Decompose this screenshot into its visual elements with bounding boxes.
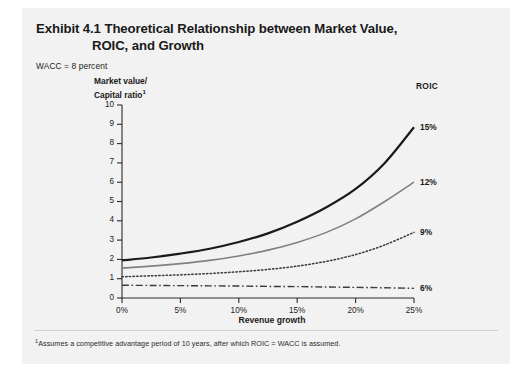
- y-tick-label-9: 9: [96, 119, 114, 128]
- x-tick-label-20pct: 20%: [341, 306, 371, 315]
- series-label-15pct: 15%: [420, 122, 437, 132]
- x-tick-label-10pct: 10%: [224, 306, 254, 315]
- x-tick-label-5pct: 5%: [165, 306, 195, 315]
- x-axis-ticks: [122, 298, 414, 303]
- footnote: 1Assumes a competitive advantage period …: [35, 338, 495, 348]
- y-tick-label-4: 4: [96, 215, 114, 224]
- x-tick-label-25pct: 25%: [399, 306, 429, 315]
- x-tick-label-15pct: 15%: [282, 306, 312, 315]
- y-tick-label-3: 3: [96, 235, 114, 244]
- y-tick-label-8: 8: [96, 138, 114, 147]
- y-tick-label-2: 2: [96, 254, 114, 263]
- y-tick-label-6: 6: [96, 177, 114, 186]
- series-label-6pct: 6%: [420, 283, 432, 293]
- exhibit-panel: Exhibit 4.1 Theoretical Relationship bet…: [22, 8, 510, 364]
- series-line-15pct: [122, 127, 414, 260]
- chart-axes: [117, 105, 414, 303]
- chart-series-group: [122, 127, 414, 288]
- y-tick-label-0: 0: [96, 293, 114, 302]
- y-tick-label-1: 1: [96, 273, 114, 282]
- series-label-9pct: 9%: [420, 227, 432, 237]
- y-tick-label-5: 5: [96, 196, 114, 205]
- y-tick-label-7: 7: [96, 157, 114, 166]
- series-line-6pct: [122, 285, 414, 288]
- footnote-divider: [34, 330, 498, 331]
- x-tick-label-0pct: 0%: [107, 306, 137, 315]
- series-label-12pct: 12%: [420, 177, 437, 187]
- footnote-text: Assumes a competitive advantage period o…: [38, 339, 340, 348]
- x-axis-title: Revenue growth: [202, 315, 342, 325]
- y-tick-label-10: 10: [96, 100, 114, 109]
- y-axis-ticks: [117, 105, 122, 298]
